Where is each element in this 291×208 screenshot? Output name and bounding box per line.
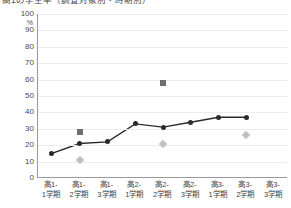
grid-line	[38, 47, 287, 48]
data-point-circle	[216, 115, 221, 120]
grid-line	[38, 14, 287, 15]
y-axis-tick-label: 20	[25, 141, 34, 149]
y-axis-tick-label: 70	[25, 59, 34, 67]
data-point-square	[160, 80, 166, 86]
data-point-circle	[244, 115, 249, 120]
data-point-circle	[161, 125, 166, 130]
chart-container: 高1の学生率（調査対象別・時期別） 0102030405060708090100…	[0, 0, 291, 208]
y-axis-tick-label: 100	[21, 10, 34, 18]
grid-line	[38, 63, 287, 64]
grid-line	[38, 162, 287, 163]
x-axis-tick-label: 高3-3学期	[256, 180, 290, 200]
y-axis-tick-label: 80	[25, 43, 34, 51]
y-axis: 0102030405060708090100%	[0, 0, 37, 195]
y-axis-tick-label: 90	[25, 26, 34, 34]
data-point-square	[77, 129, 83, 135]
y-axis-tick-label: 10	[25, 158, 34, 166]
y-axis-tick-label: 40	[25, 108, 34, 116]
grid-line	[38, 112, 287, 113]
line-path	[52, 117, 246, 153]
plot-area	[37, 14, 287, 178]
x-axis: 高1-1学期高1-2学期高1-3学期高2-1学期高2-2学期高2-3学期高3-1…	[37, 180, 287, 208]
y-axis-tick-label: 30	[25, 125, 34, 133]
grid-line	[38, 96, 287, 97]
y-axis-tick-label: 60	[25, 76, 34, 84]
y-axis-unit-label: %	[27, 19, 33, 26]
grid-line	[38, 30, 287, 31]
y-axis-tick-label: 50	[25, 92, 34, 100]
